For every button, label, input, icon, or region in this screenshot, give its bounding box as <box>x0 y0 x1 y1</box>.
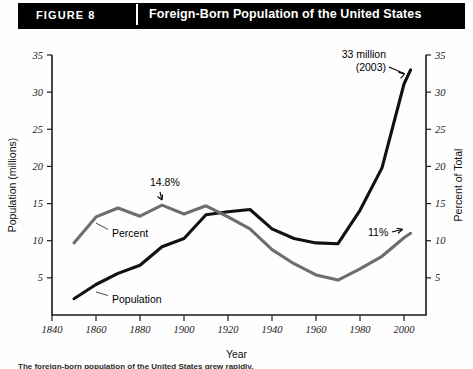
figure-caption: The foreign-born population of the Unite… <box>18 362 465 369</box>
y-tick-label-left: 20 <box>33 161 44 172</box>
x-tick-label: 2000 <box>394 324 416 335</box>
series-label-percent: Percent <box>112 227 148 239</box>
x-axis-ticks: 184018601880190019201940196019802000 <box>42 315 416 335</box>
annotation-percent-peak: 14.8% <box>150 176 180 188</box>
annotation-peak-line2: (2003) <box>356 61 386 73</box>
chart-series-lines <box>74 70 411 299</box>
line-chart: 5101520253035 5101520253035 184018601880… <box>0 34 473 364</box>
annotation-peak-line1: 33 million <box>342 48 387 60</box>
series-line-population <box>74 70 411 299</box>
chart-axes <box>52 55 426 315</box>
x-tick-label: 1960 <box>306 324 328 335</box>
header-divider <box>136 4 138 25</box>
x-tick-label: 1900 <box>174 324 196 335</box>
y-tick-label-right: 30 <box>434 87 446 98</box>
x-tick-label: 1860 <box>86 324 108 335</box>
annotation-percent-end: 11% <box>368 226 388 238</box>
y-tick-label-right: 20 <box>435 161 446 172</box>
y-tick-label-left: 25 <box>33 124 44 135</box>
y-tick-label-left: 10 <box>33 235 44 246</box>
y-tick-label-right: 10 <box>435 235 446 246</box>
chart-annotations: PercentPopulation33 million(2003)14.8%11… <box>96 48 405 305</box>
figure-title: Foreign-Born Population of the United St… <box>149 7 421 22</box>
x-tick-label: 1980 <box>350 324 372 335</box>
annotation-percent-peak-arrowhead <box>158 195 163 201</box>
chart-plot-area: 5101520253035 5101520253035 184018601880… <box>0 34 473 364</box>
figure-number: FIGURE 8 <box>36 8 128 22</box>
x-tick-label: 1940 <box>262 324 284 335</box>
y-tick-label-left: 35 <box>32 50 44 61</box>
y-tick-label-right: 15 <box>435 198 446 209</box>
y-axis-left-ticks: 5101520253035 <box>32 50 53 284</box>
series-label-population: Population <box>112 293 162 305</box>
series-label-population-leader <box>96 292 108 296</box>
figure-container: FIGURE 8 Foreign-Born Population of the … <box>0 0 473 369</box>
x-tick-label: 1920 <box>218 324 240 335</box>
axis-frame <box>52 55 426 315</box>
y-tick-label-right: 5 <box>435 272 440 283</box>
y-tick-label-right: 25 <box>435 124 446 135</box>
y-tick-label-left: 15 <box>33 198 44 209</box>
y-tick-label-right: 35 <box>434 50 446 61</box>
header-rule <box>18 26 465 29</box>
x-axis-title: Year <box>0 348 473 360</box>
y-tick-label-left: 5 <box>38 272 43 283</box>
y-axis-left-title: Population (millions) <box>6 138 18 233</box>
x-tick-label: 1840 <box>42 324 64 335</box>
y-tick-label-left: 30 <box>32 87 44 98</box>
y-axis-right-ticks: 5101520253035 <box>426 50 446 284</box>
annotation-peak-arrowhead <box>399 72 405 78</box>
series-line-percent <box>74 205 411 280</box>
series-label-percent-leader <box>96 223 108 230</box>
figure-header: FIGURE 8 Foreign-Born Population of the … <box>18 3 465 30</box>
x-tick-label: 1880 <box>130 324 152 335</box>
y-axis-right-title: Percent of Total <box>452 149 464 222</box>
